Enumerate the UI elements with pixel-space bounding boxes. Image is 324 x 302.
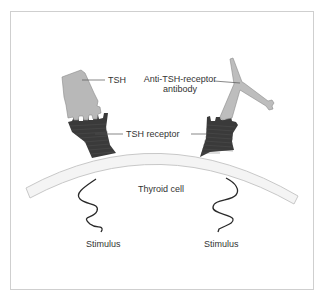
- tsh-label: TSH: [108, 75, 126, 85]
- stimulus-label-right: Stimulus: [204, 239, 239, 249]
- stimulus-squiggle-right: [213, 178, 238, 232]
- antibody-label-line2: antibody: [140, 84, 220, 94]
- tsh-hormone: [62, 70, 101, 120]
- stimulus-label-left: Stimulus: [86, 239, 121, 249]
- tsh-receptor-right: [200, 116, 238, 157]
- diagram-canvas: [0, 0, 324, 302]
- stimulus-squiggle-left: [78, 179, 102, 232]
- thyroid-cell-label: Thyroid cell: [138, 184, 184, 194]
- cell-membrane: [26, 153, 298, 204]
- anti-tsh-receptor-antibody: [220, 58, 274, 120]
- tsh-receptor-label: TSH receptor: [126, 129, 180, 139]
- antibody-label-line1: Anti-TSH-receptor: [140, 74, 220, 84]
